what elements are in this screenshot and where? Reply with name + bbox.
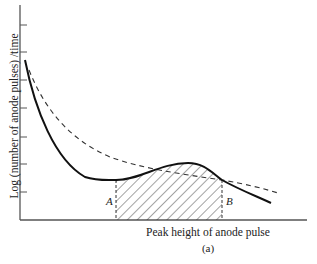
hatched-counting-region [116,150,222,220]
marker-b: B [226,195,233,207]
marker-a: A [106,195,113,207]
y-axis-label: Log (number of anode pulses) /time [8,6,20,226]
y-ticks [20,25,27,192]
figure-caption: (a) [98,242,317,254]
chart-plot [0,0,317,264]
x-axis-label: Peak height of anode pulse [98,226,317,238]
